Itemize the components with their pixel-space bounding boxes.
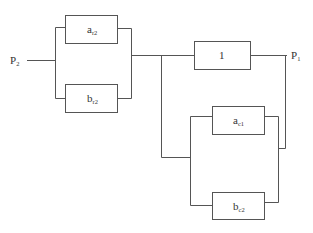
input-label: P2 — [10, 54, 19, 67]
block-1: 1 — [195, 42, 251, 70]
output-label: P1 — [291, 49, 300, 62]
block-ar2: ar2 — [66, 16, 118, 44]
block-bc2: bc2 — [213, 193, 265, 220]
block-diagram: ar2 br2 1 ac1 bc2 P2 P1 — [0, 0, 313, 233]
block-ac1: ac1 — [213, 107, 265, 135]
block-br2: br2 — [66, 85, 118, 113]
svg-text:1: 1 — [219, 49, 225, 61]
